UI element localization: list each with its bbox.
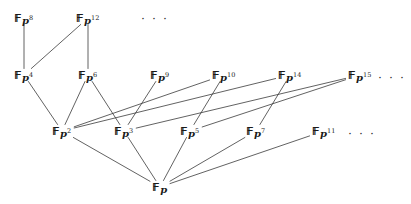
field-subscript: p [122,128,129,139]
field-subscript: p [188,128,195,139]
field-symbol-icon: F [115,126,121,137]
field-exponent: 6 [93,71,97,79]
field-symbol-icon: F [247,126,253,137]
lattice-node-p9: Fp9 [151,70,168,81]
field-subscript: p [84,15,91,26]
field-exponent: 10 [227,71,235,79]
continuation-ellipsis-row3: · · · [348,128,375,141]
field-symbol-icon: F [53,126,59,137]
field-exponent: 12 [91,14,99,22]
field-exponent: 5 [195,127,199,135]
lattice-node-p2: Fp2 [53,126,70,137]
lattice-node-p1: Fp [153,182,166,193]
field-exponent: 8 [29,14,33,22]
field-exponent: 15 [363,71,371,79]
field-subscript: p [320,128,327,139]
field-exponent: 4 [29,71,33,79]
field-subscript: p [160,184,167,195]
field-exponent: 3 [129,127,133,135]
field-exponent: 2 [67,127,71,135]
field-subscript: p [86,72,93,83]
lattice-node-p4: Fp4 [15,70,32,81]
lattice-node-p15: Fp15 [349,70,371,81]
field-exponent: 7 [261,127,265,135]
lattice-node-p6: Fp6 [79,70,96,81]
field-subscript: p [286,72,293,83]
field-subscript: p [158,72,165,83]
field-symbol-icon: F [15,70,21,81]
field-symbol-icon: F [151,70,157,81]
field-symbol-icon: F [213,70,219,81]
field-symbol-icon: F [15,13,21,24]
node-layer: Fp8Fp12Fp4Fp6Fp9Fp10Fp14Fp15Fp2Fp3Fp5Fp7… [0,0,411,204]
field-exponent: 9 [165,71,169,79]
continuation-ellipsis-row1: · · · [141,13,168,26]
field-exponent: 14 [293,71,301,79]
lattice-node-p3: Fp3 [115,126,132,137]
lattice-node-p14: Fp14 [279,70,301,81]
field-symbol-icon: F [279,70,285,81]
lattice-node-p8: Fp8 [15,13,32,24]
field-subscript: p [254,128,261,139]
field-subscript: p [22,72,29,83]
field-symbol-icon: F [79,70,85,81]
lattice-node-p10: Fp10 [213,70,235,81]
field-exponent: 11 [327,127,335,135]
field-subscript: p [22,15,29,26]
field-extension-lattice-diagram: Fp8Fp12Fp4Fp6Fp9Fp10Fp14Fp15Fp2Fp3Fp5Fp7… [0,0,411,204]
lattice-node-p5: Fp5 [181,126,198,137]
lattice-node-p7: Fp7 [247,126,264,137]
field-symbol-icon: F [181,126,187,137]
field-symbol-icon: F [77,13,83,24]
field-symbol-icon: F [153,182,159,193]
lattice-node-p12: Fp12 [77,13,99,24]
lattice-node-p11: Fp11 [313,126,335,137]
field-subscript: p [60,128,67,139]
field-subscript: p [220,72,227,83]
field-symbol-icon: F [349,70,355,81]
field-subscript: p [356,72,363,83]
continuation-ellipsis-row2: · · · [378,72,405,85]
field-symbol-icon: F [313,126,319,137]
